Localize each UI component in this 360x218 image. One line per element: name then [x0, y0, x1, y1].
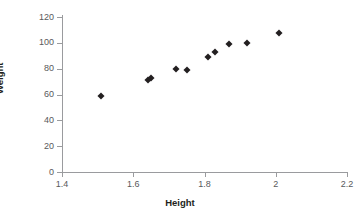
data-point	[172, 65, 179, 72]
y-tick-mark	[57, 120, 62, 121]
x-tick-mark	[62, 172, 63, 177]
data-point	[98, 92, 105, 99]
x-tick-label: 1.6	[127, 180, 140, 189]
y-tick-label: 80	[44, 64, 54, 73]
data-point	[226, 41, 233, 48]
x-axis-title: Height	[0, 197, 360, 208]
x-tick-label: 1.8	[198, 180, 211, 189]
data-point	[212, 48, 219, 55]
y-tick-mark	[57, 43, 62, 44]
scatter-chart: 020406080100120 1.41.61.822.2 Weight Hei…	[0, 0, 360, 218]
x-tick-label: 2.2	[341, 180, 354, 189]
y-tick-label: 20	[44, 142, 54, 151]
y-tick-label: 40	[44, 116, 54, 125]
data-point	[183, 66, 190, 73]
x-tick-label: 1.4	[56, 180, 69, 189]
x-tick-mark	[205, 172, 206, 177]
y-axis-line	[62, 15, 63, 173]
data-point	[205, 53, 212, 60]
x-tick-label: 2	[273, 180, 278, 189]
y-axis-title: Weight	[0, 63, 5, 95]
y-tick-mark	[57, 69, 62, 70]
y-tick-mark	[57, 146, 62, 147]
data-point	[244, 39, 251, 46]
y-tick-label: 100	[39, 38, 54, 47]
y-tick-label: 0	[49, 168, 54, 177]
x-tick-mark	[347, 172, 348, 177]
y-tick-mark	[57, 17, 62, 18]
x-tick-mark	[276, 172, 277, 177]
data-point	[276, 29, 283, 36]
y-tick-mark	[57, 95, 62, 96]
x-tick-mark	[133, 172, 134, 177]
y-tick-label: 60	[44, 90, 54, 99]
y-tick-label: 120	[39, 13, 54, 22]
